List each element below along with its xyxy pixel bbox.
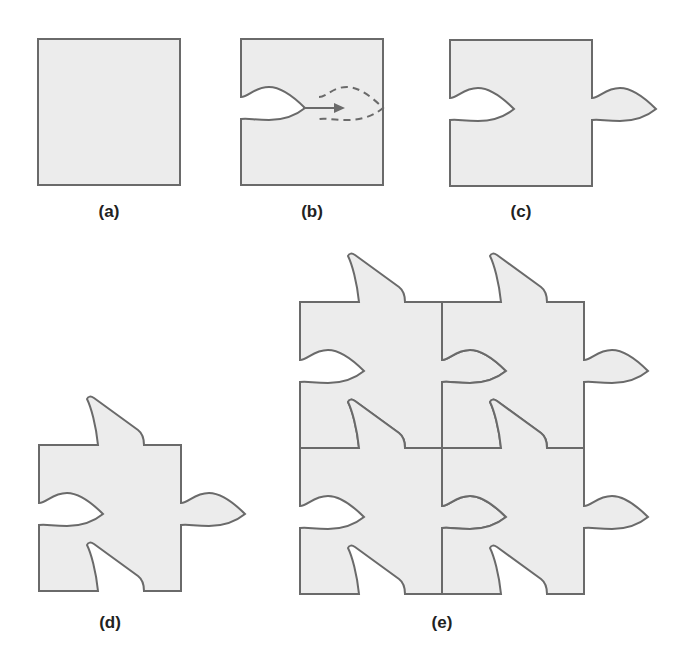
panel-d-tile [39,397,245,591]
label-b: (b) [301,202,323,222]
panel-e-tessellation [300,254,648,594]
label-c: (c) [511,202,532,222]
panel-b-shape [241,39,383,185]
label-d: (d) [99,613,121,633]
panel-c-shape [450,40,656,186]
panel-a-square [38,39,180,185]
tessellation-diagram [0,0,698,667]
label-e: (e) [432,613,453,633]
label-a: (a) [99,202,120,222]
tile-r0-c1 [442,254,648,448]
